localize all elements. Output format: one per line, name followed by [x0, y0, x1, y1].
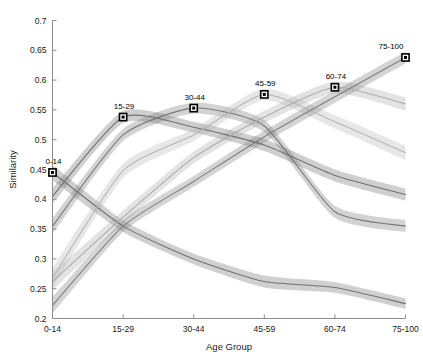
peak-marker-core-0-14 — [51, 171, 54, 174]
y-tick-label: 0.7 — [35, 16, 47, 26]
peak-marker-label-30-44: 30-44 — [184, 93, 205, 102]
peak-marker-label-15-29: 15-29 — [114, 102, 135, 111]
y-tick-label: 0.45 — [30, 165, 47, 175]
y-tick-label: 0.3 — [35, 254, 47, 264]
peak-marker-label-0-14: 0-14 — [45, 157, 62, 166]
x-axis-title: Age Group — [206, 341, 252, 352]
peak-marker-core-15-29 — [122, 116, 125, 119]
x-tick-label: 60-74 — [324, 324, 346, 334]
y-tick-label: 0.35 — [30, 224, 47, 234]
peak-marker-core-75-100 — [404, 56, 407, 59]
x-tick-label: 75-100 — [392, 324, 419, 334]
peak-marker-core-60-74 — [333, 86, 336, 89]
y-tick-label: 0.25 — [30, 284, 47, 294]
peak-marker-core-45-59 — [263, 93, 266, 96]
y-tick-label: 0.4 — [35, 194, 47, 204]
peak-marker-label-60-74: 60-74 — [326, 72, 347, 81]
peak-marker-label-75-100: 75-100 — [379, 42, 404, 51]
x-tick-labels: 0-1415-2930-4445-5960-7475-100 — [44, 324, 419, 334]
y-axis-title: Similarity — [7, 150, 18, 189]
peak-marker-label-45-59: 45-59 — [255, 79, 276, 88]
chart-canvas: 0.20.250.30.350.40.450.50.550.60.650.7 0… — [0, 0, 423, 363]
x-tick-label: 15-29 — [112, 324, 134, 334]
x-tick-label: 0-14 — [44, 324, 61, 334]
y-tick-label: 0.65 — [30, 45, 47, 55]
y-tick-label: 0.2 — [35, 314, 47, 324]
y-tick-labels: 0.20.250.30.350.40.450.50.550.60.650.7 — [30, 16, 47, 324]
similarity-by-age-group-chart: 0.20.250.30.350.40.450.50.550.60.650.7 0… — [0, 0, 423, 363]
y-tick-label: 0.5 — [35, 135, 47, 145]
confidence-bands — [53, 51, 406, 313]
y-tick-label: 0.6 — [35, 75, 47, 85]
y-tick-label: 0.55 — [30, 105, 47, 115]
x-tick-label: 30-44 — [183, 324, 205, 334]
x-tick-label: 45-59 — [253, 324, 275, 334]
peak-marker-core-30-44 — [192, 107, 195, 110]
